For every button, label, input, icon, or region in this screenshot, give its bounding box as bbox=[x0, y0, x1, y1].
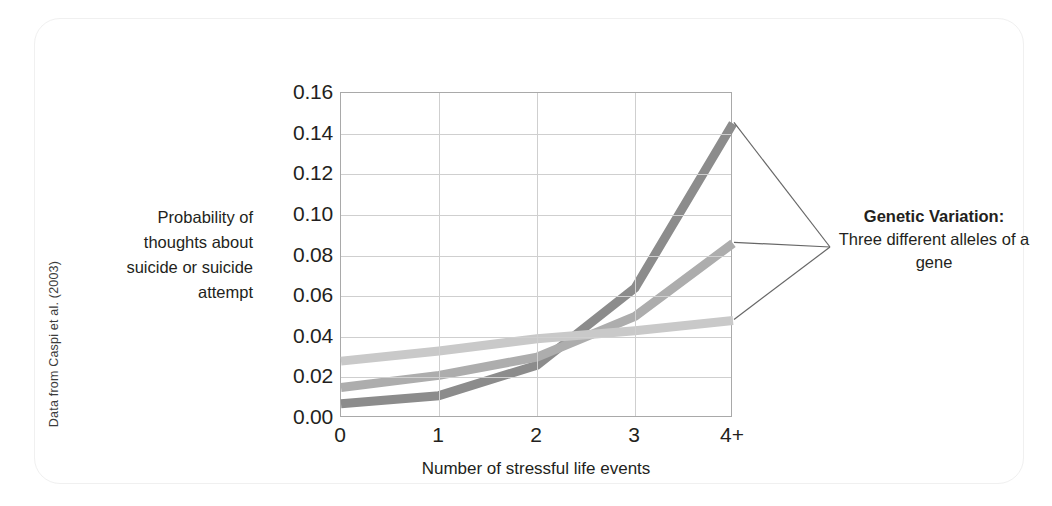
gridline-vertical bbox=[537, 93, 538, 416]
gridline-horizontal bbox=[341, 256, 731, 257]
y-axis-tick-label: 0.12 bbox=[261, 161, 333, 185]
gridline-vertical bbox=[635, 93, 636, 416]
callout-leader-line bbox=[734, 122, 830, 247]
y-axis-tick-label: 0.10 bbox=[261, 202, 333, 226]
y-axis-tick-label: 0.02 bbox=[261, 364, 333, 388]
plot-area bbox=[340, 92, 732, 417]
y-axis-tick-label: 0.08 bbox=[261, 243, 333, 267]
gridline-horizontal bbox=[341, 215, 731, 216]
y-axis-tick-labels: 0.160.140.120.100.080.060.040.020.00 bbox=[257, 92, 333, 417]
x-axis-tick-labels: 01234+ bbox=[340, 423, 732, 455]
y-axis-tick-label: 0.14 bbox=[261, 121, 333, 145]
callout-annotation: Genetic Variation: Three different allel… bbox=[821, 205, 1047, 274]
callout-leader-line bbox=[734, 247, 830, 320]
gridline-horizontal bbox=[341, 174, 731, 175]
figure-card: Data from Caspi et al. (2003) Probabilit… bbox=[34, 18, 1024, 484]
source-credit: Data from Caspi et al. (2003) bbox=[47, 199, 61, 489]
gridline-horizontal bbox=[341, 296, 731, 297]
x-axis-title: Number of stressful life events bbox=[340, 459, 732, 479]
y-axis-title: Probability of thoughts about suicide or… bbox=[105, 205, 253, 305]
gridline-horizontal bbox=[341, 337, 731, 338]
gridline-vertical bbox=[439, 93, 440, 416]
callout-leader-line bbox=[734, 242, 830, 247]
y-axis-tick-label: 0.06 bbox=[261, 283, 333, 307]
callout-heading: Genetic Variation: bbox=[821, 205, 1047, 228]
y-axis-tick-label: 0.16 bbox=[261, 80, 333, 104]
gridline-horizontal bbox=[341, 377, 731, 378]
x-axis-tick-label: 4+ bbox=[702, 423, 762, 447]
x-axis-tick-label: 2 bbox=[506, 423, 566, 447]
y-axis-tick-label: 0.04 bbox=[261, 324, 333, 348]
callout-body: Three different alleles of a gene bbox=[821, 228, 1047, 274]
x-axis-tick-label: 0 bbox=[310, 423, 370, 447]
x-axis-tick-label: 3 bbox=[604, 423, 664, 447]
gridline-horizontal bbox=[341, 134, 731, 135]
x-axis-tick-label: 1 bbox=[408, 423, 468, 447]
